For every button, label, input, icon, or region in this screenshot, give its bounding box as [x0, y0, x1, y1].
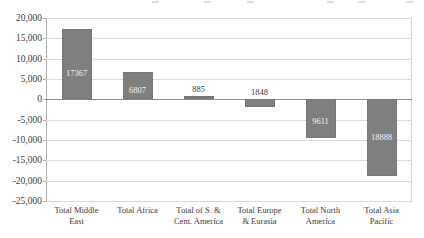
y-axis-tick-label: -15,000: [0, 155, 42, 165]
y-axis-tick-label: 10,000: [0, 54, 42, 64]
bar: 9611: [306, 99, 336, 138]
bar-value-label: 1848: [235, 88, 285, 97]
x-axis-tick-label-line: Cent. America: [168, 216, 229, 227]
bar: 18888: [367, 99, 397, 176]
bar: [245, 99, 275, 107]
gridline: [46, 59, 412, 60]
y-axis-tick-label: -5,000: [0, 115, 42, 125]
bar: [184, 96, 214, 100]
x-axis-tick-label: Total Europe& Eurasia: [229, 205, 290, 226]
x-axis-tick-label: Total NorthAmerica: [290, 205, 351, 226]
x-axis-tick-label: Total MiddleEast: [46, 205, 107, 226]
x-axis-tick-label-line: & Eurasia: [229, 216, 290, 227]
gridline: [46, 18, 412, 19]
gridline: [46, 38, 412, 39]
x-axis-tick-label-line: Total Europe: [229, 205, 290, 216]
y-axis-tick-label: 20,000: [0, 13, 42, 23]
x-axis-tick-label: Total of S. &Cent. America: [168, 205, 229, 226]
x-axis-tick-label-line: America: [290, 216, 351, 227]
x-axis-tick-label-line: Total Middle: [46, 205, 107, 216]
gridline: [46, 201, 412, 202]
x-axis-tick-label: Total AsiaPacific: [351, 205, 412, 226]
gridline: [46, 120, 412, 121]
bar-value-label: 6807: [124, 86, 152, 95]
x-axis-tick-label-line: Total of S. &: [168, 205, 229, 216]
y-axis-tick-label: -20,000: [0, 176, 42, 186]
y-axis-tick-label: 0: [0, 94, 42, 104]
gridline: [46, 181, 412, 182]
bar-value-label: 17367: [63, 69, 91, 78]
bar-value-label: 18888: [368, 133, 396, 142]
zero-axis-line: [46, 99, 412, 100]
bar-chart: 20,00015,00010,0005,0000-5,000-10,000-15…: [0, 0, 424, 238]
x-axis-tick-label-line: East: [46, 216, 107, 227]
bar-value-label: 885: [174, 85, 224, 94]
y-axis-tick-label: 5,000: [0, 74, 42, 84]
bar: 6807: [123, 72, 153, 100]
gridline: [46, 140, 412, 141]
x-axis-tick-label-line: Pacific: [351, 216, 412, 227]
bar: 17367: [62, 29, 92, 100]
x-axis-tick-label: Total Africa: [107, 205, 168, 216]
gridline: [46, 79, 412, 80]
y-axis-tick-label: -25,000: [0, 196, 42, 206]
x-axis-tick-label-line: Total Asia: [351, 205, 412, 216]
bar-value-label: 9611: [307, 117, 335, 126]
y-axis-tick-label: 15,000: [0, 33, 42, 43]
x-axis-tick-label-line: Total North: [290, 205, 351, 216]
y-axis-tick-label: -10,000: [0, 135, 42, 145]
gridline: [46, 160, 412, 161]
x-axis-tick-label-line: Total Africa: [107, 205, 168, 216]
plot-area: 1736768078851848961118888: [46, 18, 412, 201]
